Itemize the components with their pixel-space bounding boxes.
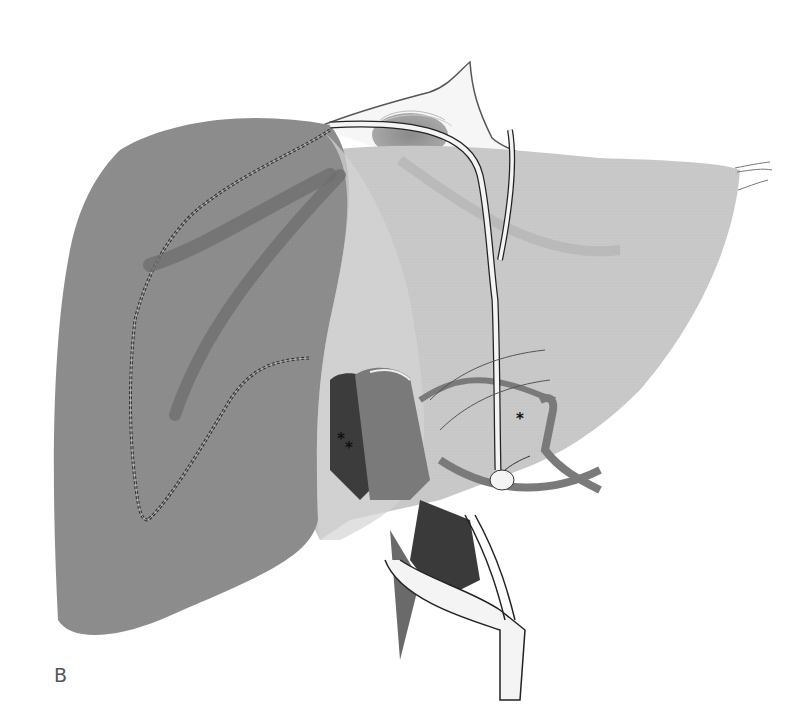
ligament-knot bbox=[490, 470, 514, 490]
liver-illustration bbox=[0, 0, 807, 717]
panel-label: B bbox=[54, 664, 67, 686]
single-asterisk-marker: * bbox=[516, 412, 524, 427]
double-asterisk-marker-1: * bbox=[337, 432, 345, 447]
double-asterisk-marker-2: * bbox=[345, 441, 353, 456]
liver-drawing bbox=[0, 0, 807, 717]
